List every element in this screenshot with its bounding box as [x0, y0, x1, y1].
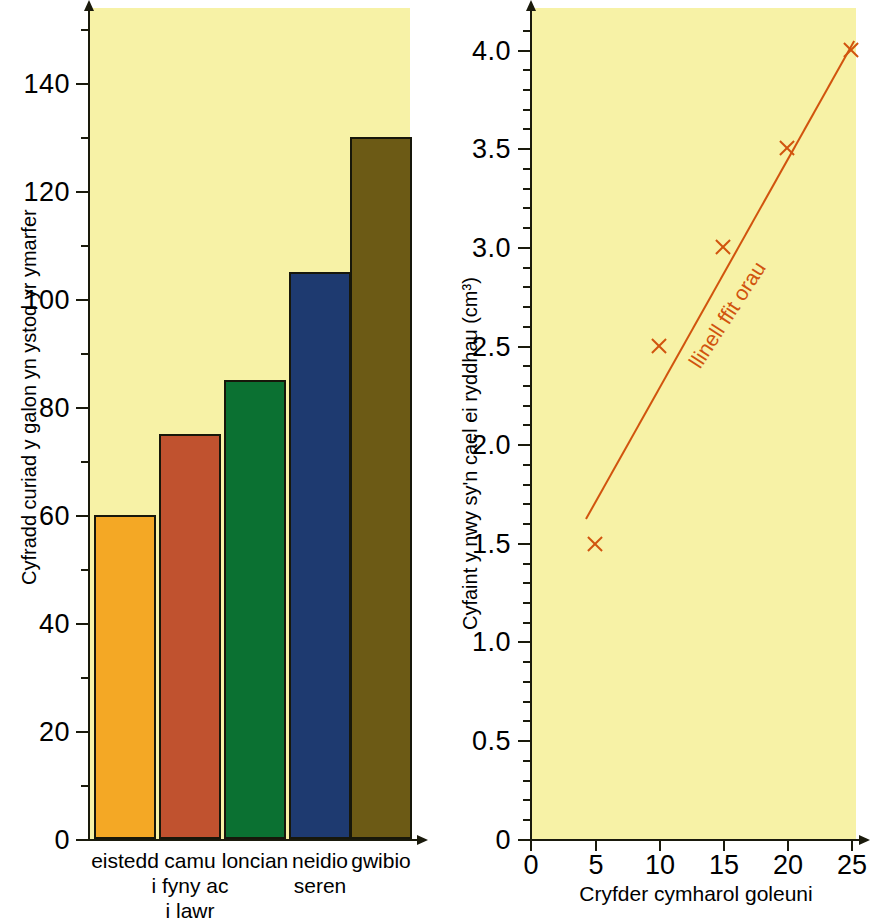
bar-ytick-0 [76, 839, 88, 841]
scatter-ytick-minor [523, 799, 530, 801]
scatter-ytick-4.0 [518, 50, 530, 52]
bar-loncian[interactable] [224, 380, 286, 839]
scatter-ytick-minor [523, 819, 530, 821]
scatter-ytick-minor [523, 503, 530, 505]
scatter-ytick-3.5 [518, 148, 530, 150]
scatter-ytick-minor [523, 306, 530, 308]
bar-y-axis-title: Cyfradd curiad y galon yn ystod yr ymarf… [18, 209, 40, 585]
scatter-chart-panel: 0 0.5 1.0 1.5 2.0 2.5 3.0 3.5 4.0 0 5 10… [431, 0, 863, 905]
scatter-ytick-minor [523, 128, 530, 130]
bar-category-label-gwibio: gwibio [326, 848, 436, 873]
scatter-x-axis [530, 839, 860, 841]
scatter-ytick-minor [523, 760, 530, 762]
scatter-ytick-minor [523, 286, 530, 288]
scatter-ytick-minor [523, 464, 530, 466]
scatter-ytick-label-3.0: 3.0 [441, 235, 511, 262]
scatter-ytick-minor [523, 602, 530, 604]
scatter-xtick-label-5: 5 [566, 852, 626, 879]
data-point-marker[interactable] [585, 534, 605, 554]
bar-ytick-minor [81, 353, 88, 355]
scatter-ytick-minor [523, 227, 530, 229]
scatter-ytick-minor [523, 267, 530, 269]
bar-ytick-minor [81, 677, 88, 679]
scatter-ytick-minor [523, 365, 530, 367]
data-point-marker[interactable] [713, 237, 733, 257]
scatter-y-axis-arrow [526, 0, 536, 11]
scatter-ytick-minor [523, 681, 530, 683]
scatter-ytick-minor [523, 89, 530, 91]
scatter-ytick-0 [518, 839, 530, 841]
bar-ytick-minor [81, 29, 88, 31]
scatter-ytick-minor [523, 109, 530, 111]
bar-ytick-label-120: 120 [0, 179, 70, 206]
scatter-xtick-label-15: 15 [694, 852, 754, 879]
bar-ytick-minor [81, 785, 88, 787]
bar-x-axis [88, 839, 418, 841]
scatter-ytick-minor [523, 424, 530, 426]
scatter-ytick-minor [523, 563, 530, 565]
scatter-plot-area [531, 8, 856, 840]
bar-ytick-100 [76, 299, 88, 301]
scatter-ytick-label-1.0: 1.0 [441, 629, 511, 656]
scatter-xtick-label-25: 25 [822, 852, 874, 879]
scatter-ytick-2.0 [518, 444, 530, 446]
bar-ytick-minor [81, 461, 88, 463]
scatter-ytick-minor [523, 405, 530, 407]
scatter-ytick-minor [523, 582, 530, 584]
bar-ytick-20 [76, 731, 88, 733]
bar-y-axis [88, 10, 90, 840]
data-point-marker[interactable] [777, 138, 797, 158]
scatter-ytick-1.0 [518, 641, 530, 643]
data-point-marker[interactable] [649, 336, 669, 356]
scatter-xtick-label-0: 0 [501, 852, 561, 879]
scatter-ytick-2.5 [518, 346, 530, 348]
scatter-y-axis [530, 10, 532, 840]
scatter-ytick-minor [523, 661, 530, 663]
bar-ytick-label-40: 40 [10, 611, 70, 638]
bar-ytick-140 [76, 83, 88, 85]
bar-ytick-label-20: 20 [10, 719, 70, 746]
scatter-ytick-minor [523, 780, 530, 782]
bar-neidio-seren[interactable] [289, 272, 351, 839]
scatter-ytick-minor [523, 326, 530, 328]
scatter-ytick-minor [523, 69, 530, 71]
scatter-ytick-minor [523, 207, 530, 209]
scatter-ytick-minor [523, 720, 530, 722]
scatter-ytick-minor [523, 484, 530, 486]
scatter-xtick-label-20: 20 [758, 852, 818, 879]
bar-y-axis-arrow [84, 0, 94, 11]
scatter-ytick-label-0.5: 0.5 [441, 728, 511, 755]
scatter-ytick-minor [523, 385, 530, 387]
scatter-ytick-minor [523, 168, 530, 170]
scatter-ytick-minor [523, 523, 530, 525]
scatter-ytick-minor [523, 701, 530, 703]
scatter-ytick-minor [523, 622, 530, 624]
data-point-marker[interactable] [841, 40, 861, 60]
bar-ytick-60 [76, 515, 88, 517]
scatter-ytick-3.0 [518, 247, 530, 249]
bar-camu-i-fyny-ac-i-lawr[interactable] [159, 434, 221, 839]
bar-ytick-40 [76, 623, 88, 625]
bar-ytick-minor [81, 137, 88, 139]
bar-ytick-80 [76, 407, 88, 409]
scatter-ytick-minor [523, 188, 530, 190]
scatter-x-axis-title: Cryfder cymharol goleuni [531, 882, 861, 905]
scatter-x-axis-arrow [859, 835, 870, 845]
scatter-ytick-1.5 [518, 543, 530, 545]
scatter-ytick-label-4.0: 4.0 [441, 38, 511, 65]
bar-eistedd[interactable] [94, 515, 156, 839]
scatter-ytick-minor [523, 30, 530, 32]
bar-x-axis-arrow [417, 835, 428, 845]
scatter-y-axis-title: Cyfaint y nwy sy'n cael ei ryddhau (cm³) [459, 277, 481, 630]
bar-chart-panel: 0 20 40 60 80 100 120 140 Cyfradd curiad… [0, 0, 432, 905]
scatter-ytick-label-0: 0 [451, 827, 511, 854]
scatter-ytick-label-3.5: 3.5 [441, 136, 511, 163]
bar-ytick-120 [76, 191, 88, 193]
bar-ytick-minor [81, 245, 88, 247]
bar-ytick-label-0: 0 [10, 827, 70, 854]
bar-ytick-minor [81, 569, 88, 571]
bar-ytick-label-140: 140 [0, 71, 70, 98]
scatter-xtick-label-10: 10 [630, 852, 690, 879]
bar-gwibio[interactable] [350, 137, 412, 839]
